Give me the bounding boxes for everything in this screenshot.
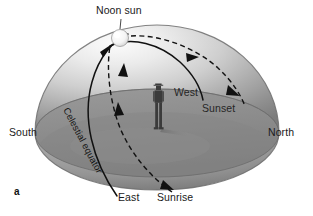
label-sunrise: Sunrise	[157, 192, 193, 203]
sky-dome-diagram	[0, 0, 313, 216]
figure-panel-label: a	[14, 187, 20, 197]
label-south: South	[9, 127, 37, 138]
noon-sun-sphere	[112, 30, 129, 47]
label-noon-sun: Noon sun	[96, 5, 142, 16]
noon-sun-leader-line	[120, 19, 121, 29]
label-east: East	[118, 192, 139, 203]
label-north: North	[268, 127, 294, 138]
label-sunset: Sunset	[202, 103, 235, 114]
label-west: West	[174, 87, 198, 98]
celestial-sphere-figure: Noon sun South North West Sunset East Su…	[0, 0, 313, 216]
